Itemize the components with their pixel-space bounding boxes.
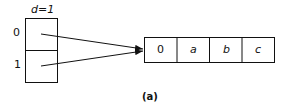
arrow-row-1	[41, 51, 143, 66]
directory-index-1: 1	[14, 59, 21, 71]
bucket-cell-1: a	[190, 44, 197, 56]
bucket-cell-2: b	[223, 44, 230, 56]
arrow-row-0	[41, 34, 143, 49]
directory-index-0: 0	[13, 27, 20, 39]
directory-table	[26, 19, 58, 83]
depth-label: d=1	[31, 4, 54, 16]
bucket-cell-3: c	[255, 44, 261, 56]
bucket-cell-0: 0	[157, 44, 164, 56]
figure-caption: (a)	[142, 91, 158, 103]
